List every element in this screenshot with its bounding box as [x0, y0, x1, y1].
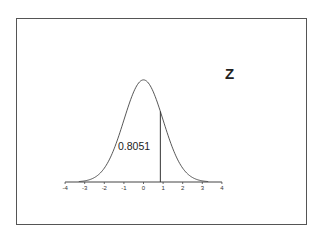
x-tick-label: 1	[161, 185, 165, 191]
x-axis-ticks: -4-3-2-101234	[62, 182, 224, 191]
x-tick-label: -4	[62, 185, 68, 191]
z-label: Z	[225, 65, 234, 82]
area-value-label: 0.8051	[118, 140, 150, 152]
normal-curve-plot: -4-3-2-101234	[0, 0, 325, 239]
x-tick-label: -3	[82, 185, 88, 191]
x-tick-label: 4	[220, 185, 224, 191]
x-tick-label: -1	[121, 185, 127, 191]
x-tick-label: 0	[142, 185, 146, 191]
normal-curve	[79, 80, 208, 182]
x-tick-label: 3	[201, 185, 205, 191]
x-tick-label: 2	[181, 185, 185, 191]
x-tick-label: -2	[102, 185, 108, 191]
